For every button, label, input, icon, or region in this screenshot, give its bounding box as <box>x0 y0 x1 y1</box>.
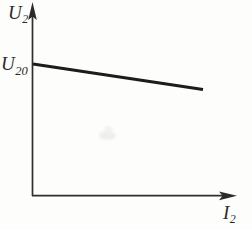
y-intercept-label-base: U <box>1 53 15 74</box>
figure-container: U2 U20 I2 <box>0 0 252 230</box>
characteristic-curve <box>33 64 203 90</box>
x-axis-label-base: I <box>223 202 229 223</box>
y-intercept-label: U20 <box>1 54 28 78</box>
y-intercept-label-subscript: 20 <box>15 64 28 78</box>
y-axis-label: U2 <box>8 3 28 25</box>
x-axis-label-subscript: 2 <box>230 212 236 226</box>
y-axis-label-subscript: 2 <box>22 12 28 26</box>
x-axis-label: I2 <box>223 203 236 225</box>
y-axis-label-base: U <box>8 2 22 23</box>
characteristic-curve-diagram <box>0 0 252 230</box>
